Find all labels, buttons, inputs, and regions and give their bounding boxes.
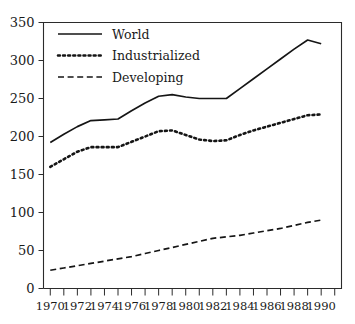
x-tick-label: 1984 (225, 299, 254, 313)
y-tick-label: 100 (10, 205, 35, 220)
x-tick-label: 1990 (307, 299, 336, 313)
x-axis-tick-labels: 1970197219741976197819801982198419861988… (36, 299, 336, 313)
x-tick-label: 1974 (90, 299, 119, 313)
x-tick-label: 1972 (63, 299, 92, 313)
x-tick-label: 1970 (36, 299, 65, 313)
x-axis-ticks (50, 289, 334, 296)
legend-label-world: World (112, 27, 150, 42)
x-tick-label: 1978 (144, 299, 173, 313)
y-tick-label: 200 (10, 129, 35, 144)
y-tick-label: 0 (26, 281, 34, 296)
y-tick-label: 50 (18, 243, 35, 258)
x-tick-label: 1982 (198, 299, 227, 313)
x-tick-label: 1980 (171, 299, 200, 313)
legend-label-developing: Developing (112, 70, 183, 85)
y-tick-label: 350 (10, 15, 35, 30)
line-chart: 050100150200250300350 197019721974197619… (0, 0, 355, 324)
y-tick-label: 250 (10, 91, 35, 106)
y-tick-label: 300 (10, 53, 35, 68)
data-series-group (50, 40, 321, 270)
x-tick-label: 1976 (117, 299, 146, 313)
y-tick-label: 150 (10, 167, 35, 182)
series-line-developing (50, 220, 321, 270)
chart-canvas: 050100150200250300350 197019721974197619… (0, 0, 355, 324)
y-axis-ticks (39, 23, 44, 289)
series-line-industrialized (50, 114, 321, 166)
legend-label-industrialized: Industrialized (112, 48, 200, 63)
y-axis-tick-labels: 050100150200250300350 (10, 15, 35, 296)
chart-legend: WorldIndustrializedDeveloping (58, 27, 200, 85)
x-tick-label: 1986 (252, 299, 281, 313)
x-tick-label: 1988 (279, 299, 308, 313)
